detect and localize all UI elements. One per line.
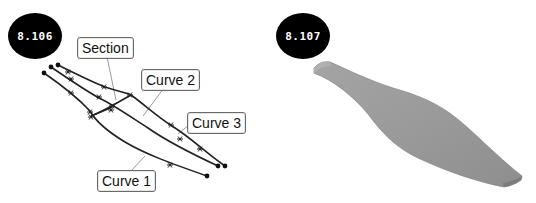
- callout-section: Section: [77, 37, 134, 59]
- callout-curve-1: Curve 1: [97, 170, 156, 192]
- lofted-surface: [314, 62, 522, 187]
- figure-8-106: 8.106: [0, 0, 268, 203]
- lofted-surface-render: [268, 0, 536, 203]
- figure-8-107: 8.107: [268, 0, 536, 203]
- callout-curve-3: Curve 3: [187, 112, 246, 134]
- callout-curve-2: Curve 2: [141, 69, 200, 91]
- section-leader-line: [107, 57, 116, 100]
- section-curve-bottom: [91, 107, 112, 116]
